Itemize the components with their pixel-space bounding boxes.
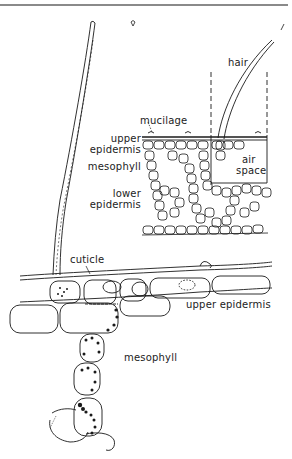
- label-inset-epidermis: epidermis: [88, 144, 141, 155]
- label-air: air: [242, 154, 256, 165]
- leaf-section-drawing: [0, 0, 292, 459]
- label-inset-upper: upper: [95, 133, 141, 144]
- label-hair: hair: [228, 57, 248, 68]
- label-upper-epidermis: upper epidermis: [186, 299, 271, 310]
- detail-epidermis: [10, 261, 272, 333]
- label-space: space: [236, 165, 266, 176]
- cuticle-leader: [86, 266, 90, 274]
- label-inset-lower: lower: [95, 188, 141, 199]
- detail-mesophyll-chain: [50, 334, 115, 450]
- label-mucilage: mucilage: [140, 115, 187, 126]
- inset-epidermis: [142, 132, 267, 141]
- label-mesophyll: mesophyll: [124, 352, 177, 363]
- label-cuticle: cuticle: [70, 254, 104, 265]
- label-inset-mesophyll: mesophyll: [80, 161, 141, 172]
- inset-hair: [218, 40, 274, 139]
- label-inset-lower-epidermis: epidermis: [88, 199, 141, 210]
